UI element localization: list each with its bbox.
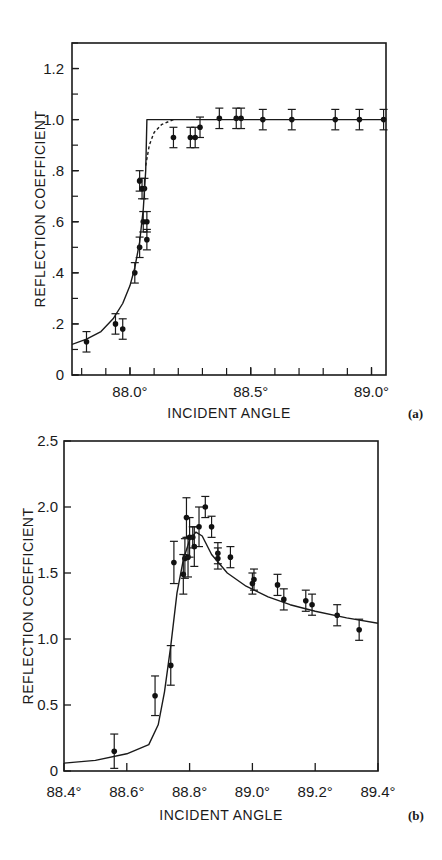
data-point bbox=[309, 602, 315, 608]
y-tick-label: 2.0 bbox=[37, 498, 58, 515]
data-point bbox=[120, 326, 126, 332]
x-tick-label: 89.2° bbox=[298, 783, 333, 800]
x-axis-title: INCIDENT ANGLE bbox=[159, 807, 282, 823]
x-tick-label: 88.6° bbox=[109, 783, 144, 800]
y-tick-label: 1.0 bbox=[37, 630, 58, 647]
x-tick-label: 89.0° bbox=[235, 783, 270, 800]
y-tick-label: 0 bbox=[50, 762, 58, 779]
x-tick-label: 89.0° bbox=[354, 383, 389, 400]
chart-panel-b: 00.51.01.52.02.588.4°88.6°88.8°89.0°89.2… bbox=[20, 432, 424, 823]
y-tick-label: .8 bbox=[51, 162, 64, 179]
x-tick-label: 88.8° bbox=[172, 783, 207, 800]
figure: 0.2.4.6.81.01.288.0°88.5°89.0°INCIDENT A… bbox=[0, 0, 442, 860]
theory-curve bbox=[72, 120, 386, 345]
data-point bbox=[203, 504, 209, 510]
data-point bbox=[228, 554, 234, 560]
panel-label: (b) bbox=[408, 808, 424, 823]
data-point bbox=[188, 135, 194, 141]
x-tick-label: 88.4° bbox=[46, 783, 81, 800]
y-axis-title: REFLECTION COEFFICIENT bbox=[32, 111, 48, 308]
y-tick-label: .4 bbox=[51, 264, 64, 281]
x-tick-label: 88.5° bbox=[233, 383, 268, 400]
y-axis-title: REFLECTION COEFFICIENT bbox=[20, 508, 36, 705]
data-point bbox=[196, 524, 202, 530]
data-point bbox=[111, 748, 117, 754]
y-tick-label: 0 bbox=[56, 366, 64, 383]
x-tick-label: 88.0° bbox=[112, 383, 147, 400]
plot-frame bbox=[72, 43, 386, 375]
data-point bbox=[113, 321, 119, 327]
y-tick-label: .6 bbox=[51, 213, 64, 230]
chart-panel-a: 0.2.4.6.81.01.288.0°88.5°89.0°INCIDENT A… bbox=[32, 43, 423, 421]
panel-label: (a) bbox=[408, 406, 423, 421]
data-point bbox=[209, 524, 215, 530]
y-tick-label: 0.5 bbox=[37, 696, 58, 713]
data-point bbox=[356, 627, 362, 633]
data-point bbox=[144, 219, 150, 225]
y-tick-label: 2.5 bbox=[37, 432, 58, 449]
data-point bbox=[275, 582, 281, 588]
data-point bbox=[171, 560, 177, 566]
y-tick-label: 1.5 bbox=[37, 564, 58, 581]
theory-curve bbox=[64, 532, 378, 763]
plot-frame bbox=[64, 441, 378, 771]
y-tick-label: 1.2 bbox=[43, 60, 64, 77]
x-tick-label: 89.4° bbox=[360, 783, 395, 800]
data-point bbox=[171, 135, 177, 141]
data-point bbox=[197, 124, 203, 130]
theory-curve-dashed bbox=[146, 120, 174, 166]
data-point bbox=[152, 693, 158, 699]
data-point bbox=[251, 577, 257, 583]
y-tick-label: .2 bbox=[51, 315, 64, 332]
x-axis-title: INCIDENT ANGLE bbox=[167, 405, 290, 421]
data-point bbox=[303, 598, 309, 604]
data-point bbox=[144, 237, 150, 243]
